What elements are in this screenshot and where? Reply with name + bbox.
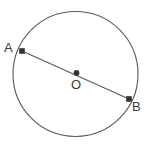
- geometry-figure: A O B: [0, 0, 150, 148]
- point-label-o: O: [71, 78, 81, 91]
- point-label-b: B: [132, 100, 141, 113]
- point-marker-a: [19, 48, 25, 54]
- point-marker-b: [126, 96, 132, 102]
- geometry-canvas: [0, 0, 150, 148]
- point-marker-o: [74, 70, 80, 76]
- point-label-a: A: [4, 41, 13, 54]
